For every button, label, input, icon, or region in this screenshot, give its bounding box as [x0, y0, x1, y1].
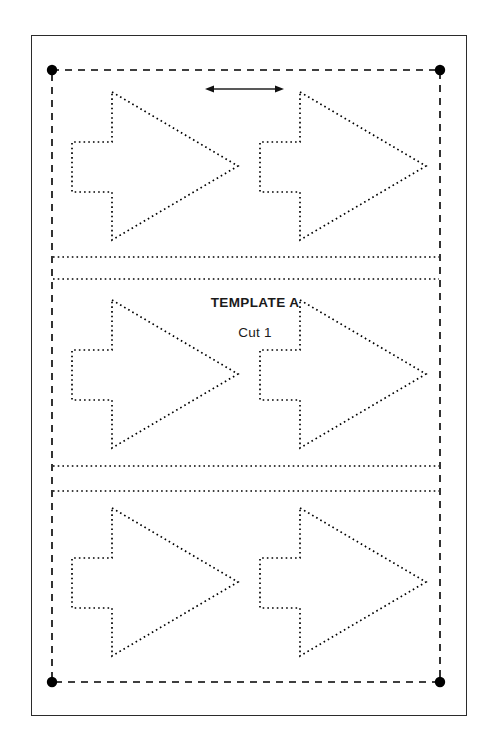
- cut-count-label: Cut 1: [238, 326, 271, 340]
- page-frame: [31, 35, 467, 716]
- page-title: TEMPLATE A: [211, 296, 300, 310]
- template-sheet: TEMPLATE A Cut 1: [0, 0, 489, 756]
